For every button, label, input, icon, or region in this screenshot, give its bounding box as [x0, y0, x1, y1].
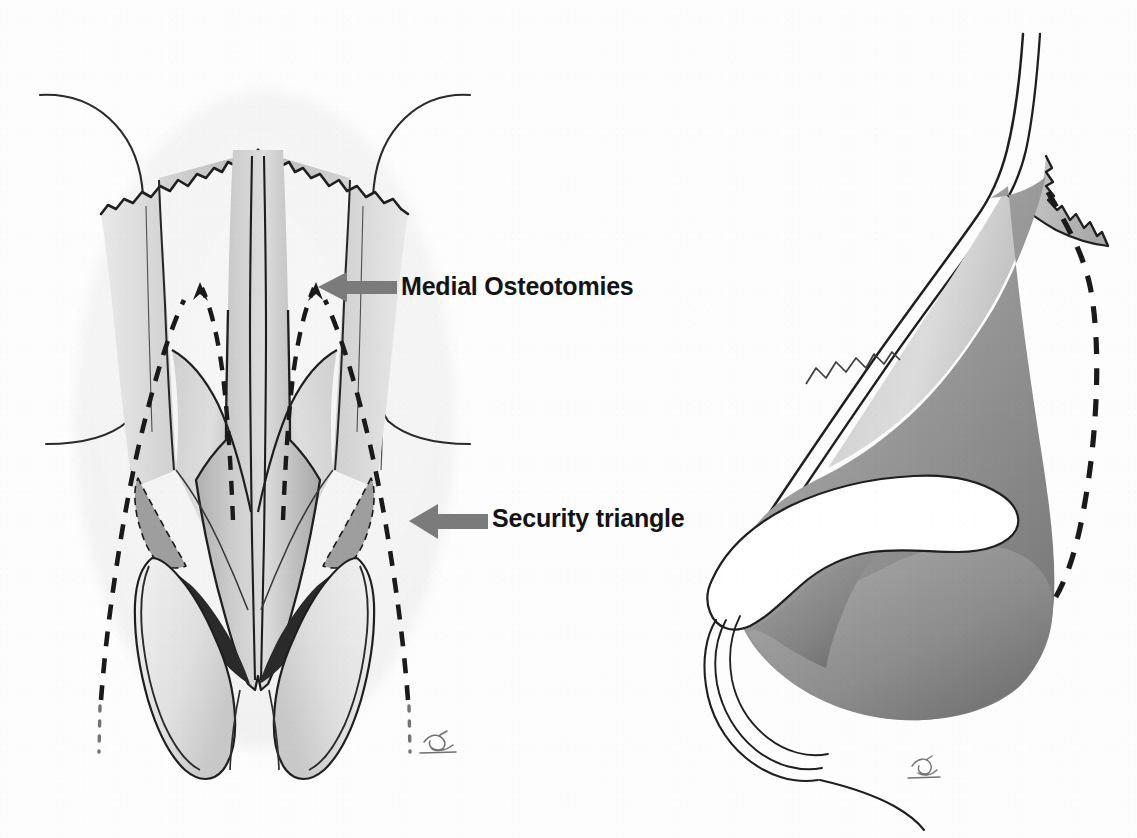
label-security-triangle: Security triangle: [492, 506, 685, 531]
label-medial-osteotomies: Medial Osteotomies: [401, 274, 634, 299]
medical-illustration-canvas: [0, 0, 1137, 838]
illustration-page: Medial Osteotomies Security triangle: [0, 0, 1137, 838]
